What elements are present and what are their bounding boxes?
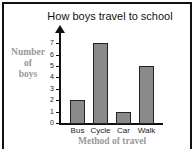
chart-title: How boys travel to school [0,10,192,22]
category-label: Car [112,126,136,135]
y-tick [56,66,60,67]
bar-car [116,112,131,124]
bar-walk [139,66,154,124]
category-label: Walk [135,126,159,135]
y-axis-label-line: of [6,58,50,69]
y-tick-label: 3 [46,85,54,93]
y-tick [56,123,60,124]
y-tick-label: 4 [46,73,54,81]
y-tick-label: 0 [46,119,54,127]
y-tick [56,55,60,56]
y-tick-label: 7 [46,39,54,47]
y-tick [56,43,60,44]
y-tick-label: 2 [46,96,54,104]
x-axis-label: Method of travel [60,136,164,146]
y-axis-label-line: Number [6,47,50,58]
y-tick [56,89,60,90]
category-label: Bus [66,126,90,135]
bar-cycle [93,43,108,124]
y-tick [56,77,60,78]
y-axis-label-line: boys [6,69,50,80]
y-tick-label: 6 [46,51,54,59]
bar-bus [70,100,85,124]
y-tick-label: 1 [46,108,54,116]
y-tick [56,112,60,113]
y-tick [56,100,60,101]
y-tick-label: 5 [46,62,54,70]
y-axis-label: Number of boys [6,47,50,80]
category-label: Cycle [89,126,113,135]
